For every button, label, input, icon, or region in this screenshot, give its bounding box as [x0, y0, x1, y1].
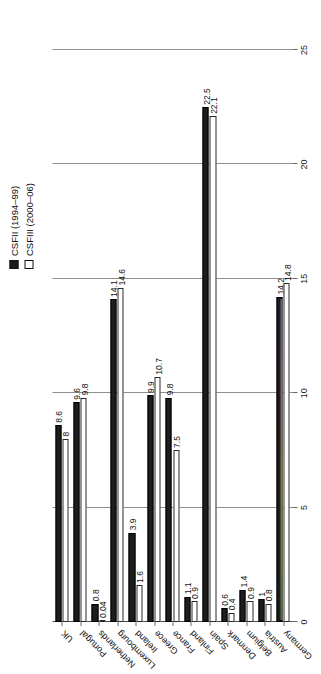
bar [117, 288, 123, 622]
bar [276, 297, 282, 622]
bar [265, 604, 271, 622]
bar-value-label: 14.8 [283, 264, 292, 281]
bar-value-label: 9.8 [165, 383, 174, 395]
bar [99, 620, 105, 622]
rotated-figure-canvas: CSFII (1994–99) CSFIII (2000–06) 0510152… [0, 0, 321, 674]
bar-value-label: 9.8 [80, 383, 89, 395]
bar-value-label: 0.4 [227, 599, 236, 611]
bar-value-label: 1.6 [135, 571, 144, 583]
bar [258, 599, 264, 622]
axis-tick-label: 20 [298, 159, 308, 169]
bar-value-label: 10.7 [154, 358, 163, 375]
bar-value-label: 22.1 [209, 97, 218, 114]
bar [209, 116, 215, 622]
bar-value-label: 7.5 [172, 436, 181, 448]
category-tick [172, 622, 173, 626]
hollow-square-icon [24, 260, 33, 269]
gridline-20 [52, 163, 292, 164]
bar [283, 283, 289, 622]
bar [80, 398, 86, 622]
filled-square-icon [9, 260, 18, 269]
axis-tick-mark-15 [292, 278, 297, 279]
bar [228, 613, 234, 622]
bar-value-label: 14.6 [117, 269, 126, 286]
legend-label-csfiii: CSFIII (2000–06) [23, 183, 34, 256]
category-tick [283, 622, 284, 626]
axis-tick-label: 25 [298, 45, 308, 55]
chart-legend: CSFII (1994–99) CSFIII (2000–06) [8, 183, 34, 269]
category-label: UK [59, 628, 75, 644]
legend-item-csfii: CSFII (1994–99) [8, 183, 19, 269]
bar-value-label: 8 [61, 432, 70, 437]
bar-value-label: 0.8 [264, 589, 273, 601]
category-tick [264, 622, 265, 626]
axis-tick-mark-10 [292, 392, 297, 393]
legend-item-csfiii: CSFIII (2000–06) [23, 183, 34, 269]
category-tick [246, 622, 247, 626]
bar [246, 601, 252, 622]
bar [239, 590, 245, 622]
bar-value-label: 0.04 [98, 601, 107, 618]
category-tick [154, 622, 155, 626]
bar [147, 396, 153, 623]
bar [55, 425, 61, 622]
bar [221, 608, 227, 622]
bar [110, 299, 116, 622]
plot-inner: 0510152025Germany14.214.8Austria10.8Belg… [52, 50, 292, 622]
bar [191, 601, 197, 622]
bar [73, 402, 79, 622]
category-tick [190, 622, 191, 626]
category-tick [227, 622, 228, 626]
axis-tick-label: 10 [298, 388, 308, 398]
axis-tick-mark-20 [292, 163, 297, 164]
axis-tick-label: 0 [298, 619, 308, 624]
bar [136, 585, 142, 622]
category-tick [209, 622, 210, 626]
axis-tick-mark-5 [292, 507, 297, 508]
axis-tick-mark-25 [292, 49, 297, 50]
bar [62, 439, 68, 622]
bar-value-label: 0.8 [91, 589, 100, 601]
bar-value-label: 0.9 [246, 587, 255, 599]
category-tick [98, 622, 99, 626]
bar-value-label: 3.9 [128, 518, 137, 530]
axis-tick-mark-0 [292, 621, 297, 622]
category-tick [61, 622, 62, 626]
bar-value-label: 0.9 [190, 587, 199, 599]
gridline-5 [52, 507, 292, 508]
bar [184, 597, 190, 622]
axis-tick-label: 15 [298, 274, 308, 284]
bar [173, 450, 179, 622]
axis-tick-label: 5 [298, 505, 308, 510]
category-tick [135, 622, 136, 626]
gridline-15 [52, 278, 292, 279]
bar-value-label: 1.4 [239, 576, 248, 588]
bar [202, 107, 208, 622]
bar [165, 398, 171, 622]
bar [154, 377, 160, 622]
category-tick [80, 622, 81, 626]
bar-value-label: 8.6 [54, 411, 63, 423]
legend-label-csfii: CSFII (1994–99) [8, 186, 19, 256]
category-tick [117, 622, 118, 626]
plot-area: 0510152025Germany14.214.8Austria10.8Belg… [52, 50, 292, 622]
gridline-25 [52, 49, 292, 50]
bar-chart-figure: CSFII (1994–99) CSFIII (2000–06) 0510152… [0, 0, 321, 674]
